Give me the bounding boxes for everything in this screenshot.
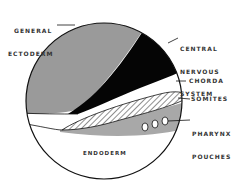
label-line: NERVOUS — [180, 68, 220, 76]
label-pharynx-pouches: PHARYNX POUCHES — [192, 115, 231, 168]
label-central-nervous-system: CENTRAL NERVOUS SYSTEM — [180, 30, 220, 105]
label-line: PHARYNX — [192, 130, 231, 138]
leader-cns — [168, 38, 178, 43]
label-line: POUCHES — [192, 153, 231, 161]
label-somites: SOMITES — [191, 95, 228, 103]
label-line: CENTRAL — [180, 45, 220, 53]
label-line: ECTODERM — [8, 50, 53, 58]
label-general-ectoderm: GENERAL ECTODERM — [14, 12, 53, 65]
label-line: GENERAL — [14, 27, 53, 35]
label-endoderm: ENDODERM — [83, 150, 127, 158]
pharynx-pouch-3 — [162, 117, 168, 125]
pharynx-pouch-2 — [152, 120, 158, 128]
pharynx-pouch-1 — [142, 123, 148, 131]
label-chorda: CHORDA — [189, 77, 224, 85]
